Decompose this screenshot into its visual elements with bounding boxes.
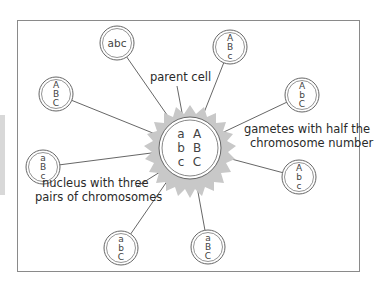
svg-text:A: A	[193, 127, 202, 141]
gametes-label-line1: gametes with half the	[244, 122, 373, 136]
svg-text:c: c	[297, 181, 302, 191]
svg-text:b: b	[177, 141, 185, 155]
parent-cell: a A b B c C	[159, 117, 221, 179]
gamete-abc: abc	[100, 26, 134, 60]
nucleus-label: nucleus with three pairs of chromosomes	[35, 176, 162, 204]
nucleus-label-line1: nucleus with three	[35, 176, 162, 190]
svg-text:C: C	[53, 98, 59, 108]
gamete-ABC: A B C	[39, 77, 73, 111]
gamete-Abc: A b c	[282, 160, 316, 194]
svg-text:C: C	[193, 155, 201, 169]
svg-text:B: B	[193, 141, 201, 155]
nucleus-label-line2: pairs of chromosomes	[35, 190, 162, 204]
gamete-abC: a b C	[104, 231, 138, 265]
gamete-AbC: A b C	[285, 78, 319, 112]
gametes-label: gametes with half the chromosome number	[244, 122, 373, 150]
gamete-ABc: A B c	[213, 30, 247, 64]
svg-text:abc: abc	[108, 37, 127, 49]
gametes-label-line2: chromosome number	[244, 136, 373, 150]
svg-text:c: c	[228, 51, 233, 61]
svg-text:C: C	[205, 251, 211, 261]
svg-text:C: C	[299, 99, 305, 109]
svg-text:a: a	[177, 127, 184, 141]
svg-text:c: c	[178, 155, 185, 169]
gamete-aBC: a B C	[191, 230, 225, 264]
parent-cell-label: parent cell	[150, 70, 211, 84]
svg-text:C: C	[118, 252, 124, 262]
